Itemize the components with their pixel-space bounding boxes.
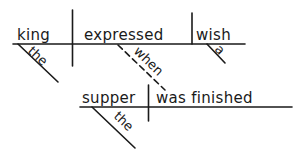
verb-word: expressed	[84, 26, 164, 44]
subordinate-verb-word: was finished	[156, 89, 253, 107]
subject-modifier-word: the	[25, 43, 51, 69]
diagram-canvas: king expressed wish the a when supper wa…	[0, 0, 303, 157]
subordinate-modifier-word: the	[111, 108, 137, 134]
subject-word: king	[17, 26, 50, 44]
subordinate-subject-word: supper	[82, 89, 136, 107]
connector-word: when	[131, 43, 167, 78]
sentence-diagram: king expressed wish the a when supper wa…	[0, 0, 303, 157]
object-word: wish	[196, 26, 231, 44]
